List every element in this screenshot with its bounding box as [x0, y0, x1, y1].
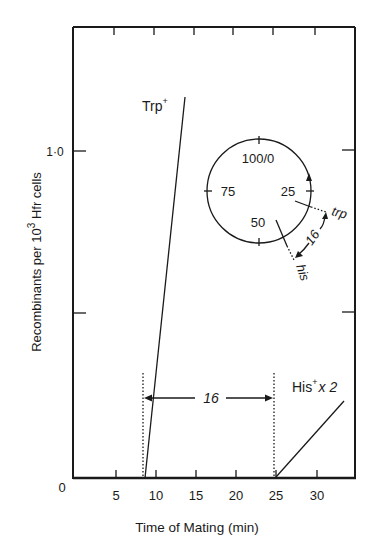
y-tick-label-zero: 0 — [58, 480, 65, 495]
x-tick-label: 30 — [310, 488, 324, 503]
map-label-75: 75 — [221, 184, 235, 199]
map-label-50: 50 — [251, 215, 265, 230]
x-tick-label: 15 — [189, 488, 203, 503]
x-ticks — [114, 27, 317, 478]
direction-arrow-icon — [306, 173, 312, 181]
x-tick-label: 20 — [229, 488, 243, 503]
interval-label: 16 — [203, 390, 219, 406]
x-tick-labels: 5 10 15 20 25 30 — [112, 488, 324, 503]
inset-circular-map: 100/0 25 50 75 trp his 16 — [204, 136, 349, 283]
plot-frame — [73, 27, 356, 479]
map-label-25: 25 — [281, 184, 295, 199]
x-tick-label: 25 — [269, 488, 283, 503]
series-label-trp: Trp+ — [142, 96, 168, 114]
trp-marker — [295, 201, 311, 207]
series-line-trp — [145, 97, 185, 478]
arrow-left-icon — [144, 395, 152, 402]
chart: 5 10 15 20 25 30 0 1·0 Time of Mating (m… — [0, 0, 375, 551]
x-axis-label: Time of Mating (min) — [135, 520, 258, 535]
map-distance-label: 16 — [302, 227, 323, 248]
arrow-up-icon — [322, 212, 328, 219]
map-label-100-0: 100/0 — [242, 151, 275, 166]
y-tick-label-one: 1·0 — [46, 145, 64, 159]
his-gene-label: his — [293, 262, 313, 283]
series-line-his — [276, 401, 344, 477]
interval-annotation: 16 — [143, 373, 274, 478]
x-tick-label: 5 — [112, 488, 119, 503]
series-label-his: His+x 2 — [292, 377, 337, 395]
y-axis-label: Recombinants per 103 Hfr cells — [26, 172, 44, 352]
arrow-right-icon — [265, 395, 273, 402]
his-marker — [276, 220, 287, 246]
x-tick-label: 10 — [149, 488, 163, 503]
trp-gene-label: trp — [330, 203, 349, 221]
